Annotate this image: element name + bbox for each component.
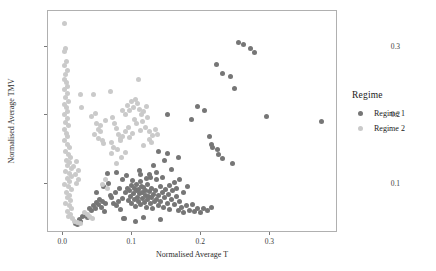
data-point [130,131,135,136]
data-point [162,158,167,163]
data-point [68,198,73,203]
data-point [94,190,99,195]
data-point [118,207,123,212]
data-point [151,163,156,168]
legend-key [352,111,368,116]
legend-dot-icon [358,126,363,131]
data-point [114,170,119,175]
legend-items: Regime 1Regime 2 [352,106,436,136]
data-point [67,179,72,184]
data-point [123,150,128,155]
data-point [177,177,182,182]
data-point [74,159,79,164]
data-point [105,186,110,191]
data-point [181,210,186,215]
data-point [165,112,170,117]
data-point [209,205,214,210]
data-point [161,205,166,210]
data-point [167,207,172,212]
x-tick-mark [131,232,132,235]
data-point [133,204,138,209]
legend: Regime Regime 1Regime 2 [352,90,436,136]
data-point [125,103,130,108]
data-point [105,171,110,176]
data-point [214,62,219,67]
data-point [190,202,195,207]
data-point [98,129,103,134]
data-point [165,151,170,156]
data-point [135,101,140,106]
data-point [122,216,127,221]
data-point [62,21,67,26]
data-point [181,190,186,195]
data-point [141,143,146,148]
data-point [101,141,106,146]
data-point [220,71,225,76]
data-point [69,206,74,211]
data-point [154,170,159,175]
data-point [145,115,150,120]
x-axis-title: Normalised Average T [47,250,337,259]
data-point [185,184,190,189]
data-point [220,156,225,161]
data-point [154,177,159,182]
data-point [177,199,182,204]
data-point [207,134,212,139]
data-point [108,89,113,94]
x-tick-label: 0.0 [58,237,67,246]
data-point [115,147,120,152]
data-point [155,132,160,137]
data-point [120,196,125,201]
data-point [195,104,200,109]
data-point [141,109,146,114]
data-point [228,74,233,79]
data-point [230,161,235,166]
data-point [90,216,95,221]
legend-item[interactable]: Regime 1 [352,106,436,121]
data-point [158,217,163,222]
data-point [91,92,96,97]
legend-dot-icon [358,111,363,116]
data-point [110,115,115,120]
data-point [252,50,257,55]
x-tick-mark [62,232,63,235]
data-point [118,138,123,143]
data-point [123,112,128,117]
x-tick-label: 0.2 [196,237,205,246]
data-point [74,181,79,186]
data-points-layer [47,10,337,232]
data-point [172,202,177,207]
data-point [138,172,143,177]
data-point [78,221,83,226]
y-tick-label: 0.1 [391,178,400,187]
data-point [202,108,207,113]
data-point [176,155,181,160]
data-point [112,121,117,126]
data-point [131,105,136,110]
y-axis-title: Normalised Average TMV [7,10,21,232]
legend-item[interactable]: Regime 2 [352,121,436,136]
data-point [69,187,74,192]
data-point [103,201,108,206]
legend-label: Regime 2 [374,124,405,133]
data-point [117,186,122,191]
data-point [102,209,107,214]
data-point [216,152,221,157]
data-point [241,42,246,47]
data-point [114,126,119,131]
data-point [174,186,179,191]
data-point [232,86,237,91]
x-tick-mark [200,232,201,235]
data-point [149,140,154,145]
data-point [133,219,138,224]
data-point [109,195,114,200]
data-point [150,206,155,211]
data-point [156,149,161,154]
data-point [109,151,114,156]
x-tick-label: 0.3 [265,237,274,246]
data-point [100,182,105,187]
data-point [189,117,194,122]
data-point [174,194,179,199]
data-point [165,201,170,206]
data-point [103,177,108,182]
